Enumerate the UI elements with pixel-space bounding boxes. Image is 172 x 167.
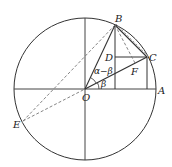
label-A: A: [157, 85, 165, 96]
label-F: F: [130, 66, 139, 77]
label-angle-beta: β: [100, 79, 106, 89]
label-angle-alpha-minus-beta: α−β: [94, 66, 113, 76]
angle-arc-beta: [97, 83, 99, 89]
geometry-diagram: B C D F A O E α−β β: [0, 0, 172, 167]
dashed-BC: [116, 24, 148, 56]
label-O: O: [82, 92, 90, 103]
label-E: E: [12, 119, 21, 130]
label-B: B: [114, 13, 122, 24]
label-D: D: [104, 52, 113, 63]
label-C: C: [149, 52, 157, 63]
segment-BC: [115, 25, 147, 57]
angle-arc-alpha-minus-beta: [90, 78, 96, 84]
dashed-EO: [23, 89, 85, 121]
